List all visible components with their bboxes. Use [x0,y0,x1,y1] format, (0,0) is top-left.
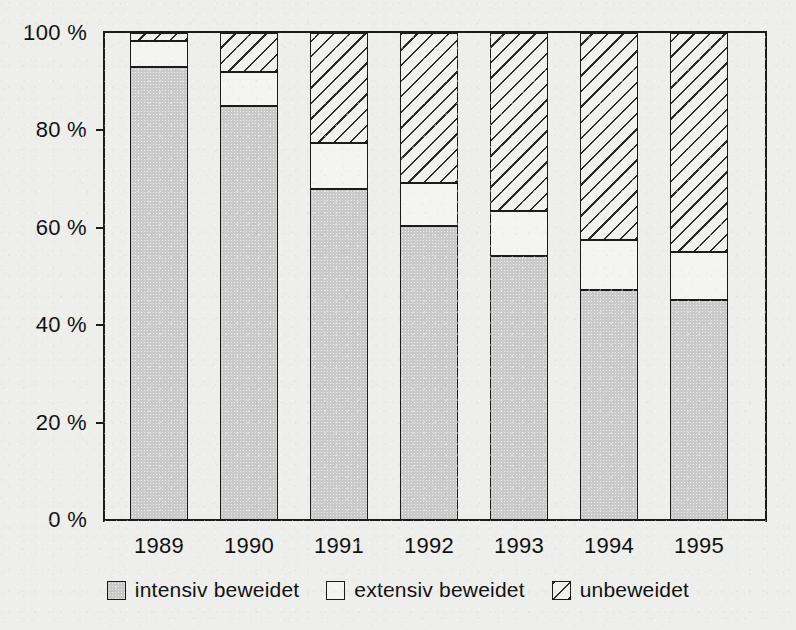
bar-segment-1992-unbeweidet [400,33,458,183]
bar-segment-1992-intensiv [400,226,458,520]
y-tick-label-60: 60 % [36,215,87,241]
x-tick-label-1991: 1991 [310,533,368,559]
y-axis-line [103,31,105,522]
bar-group-1991 [310,33,368,520]
bar-segment-1993-intensiv [490,256,548,520]
bar-group-1992 [400,33,458,520]
x-tick-label-1990: 1990 [220,533,278,559]
y-tick-mark-20 [96,422,105,424]
bar-segment-1991-intensiv [310,189,368,520]
bar-segment-1990-unbeweidet [220,33,278,72]
legend-swatch-gray-icon [107,581,126,600]
x-tick-label-1995: 1995 [670,533,728,559]
stacked-bar-chart: 0 %20 %40 %60 %80 %100 % 198919901991199… [0,0,796,630]
y-tick-mark-60 [96,227,105,229]
bar-group-1994 [580,33,638,520]
legend-label: unbeweidet [580,578,689,602]
bar-group-1990 [220,33,278,520]
bar-segment-1992-extensiv [400,183,458,226]
x-tick-label-1989: 1989 [130,533,188,559]
bar-segment-1989-intensiv [130,67,188,520]
y-tick-label-40: 40 % [36,312,87,338]
legend-swatch-white-icon [326,581,345,600]
x-tick-label-1992: 1992 [400,533,458,559]
bar-segment-1990-intensiv [220,106,278,520]
bar-segment-1994-intensiv [580,290,638,520]
chart-legend: intensiv beweidetextensiv beweidetunbewe… [0,578,796,602]
bar-group-1989 [130,33,188,520]
legend-item-gray: intensiv beweidet [107,578,300,602]
y-tick-label-20: 20 % [36,410,87,436]
plot-right-border [765,31,767,522]
bar-segment-1993-extensiv [490,211,548,256]
x-tick-label-1994: 1994 [580,533,638,559]
bar-segment-1989-unbeweidet [130,33,188,41]
bar-segment-1991-unbeweidet [310,33,368,143]
legend-item-hatched: unbeweidet [552,578,689,602]
y-tick-mark-80 [96,129,105,131]
bar-group-1995 [670,33,728,520]
y-tick-mark-40 [96,324,105,326]
legend-label: extensiv beweidet [354,578,524,602]
legend-label: intensiv beweidet [135,578,300,602]
legend-swatch-hatched-icon [552,581,571,600]
bar-segment-1994-extensiv [580,240,638,290]
bar-segment-1995-extensiv [670,252,728,300]
y-tick-label-100: 100 % [23,20,87,46]
y-tick-label-0: 0 % [48,507,87,533]
bar-segment-1995-intensiv [670,300,728,520]
bar-segment-1993-unbeweidet [490,33,548,211]
y-tick-label-80: 80 % [36,117,87,143]
bar-segment-1989-extensiv [130,41,188,67]
bar-segment-1995-unbeweidet [670,33,728,252]
bar-segment-1991-extensiv [310,143,368,189]
x-tick-label-1993: 1993 [490,533,548,559]
bar-segment-1994-unbeweidet [580,33,638,240]
bar-segment-1990-extensiv [220,72,278,106]
bar-group-1993 [490,33,548,520]
legend-item-white: extensiv beweidet [326,578,524,602]
